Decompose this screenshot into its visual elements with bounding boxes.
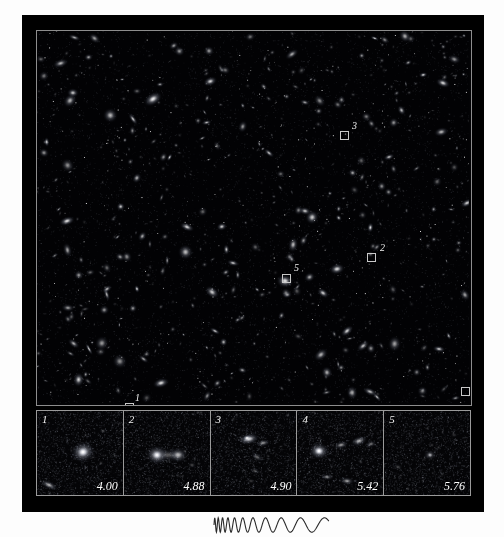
thumbnail-panel-5[interactable]: 55.76 (383, 410, 471, 496)
thumbnail-index-4: 4 (302, 414, 308, 425)
thumbnail-strip: 14.0024.8834.9045.4255.76 (36, 410, 470, 496)
thumbnail-redshift-4: 5.42 (357, 480, 378, 493)
thumbnail-panel-2[interactable]: 24.88 (123, 410, 211, 496)
figure-plate: 12345 14.0024.8834.9045.4255.76 (22, 15, 484, 512)
marker-label-2: 2 (380, 243, 385, 253)
thumbnail-redshift-3: 4.90 (270, 480, 291, 493)
thumbnail-index-2: 2 (129, 414, 135, 425)
thumbnail-index-1: 1 (42, 414, 48, 425)
marker-box-3[interactable] (340, 131, 349, 140)
deep-field-survey-image[interactable]: 12345 (36, 30, 472, 406)
marker-box-4[interactable] (461, 387, 470, 396)
marker-label-4: 4 (471, 377, 472, 387)
thumbnail-panel-1[interactable]: 14.00 (36, 410, 124, 496)
marker-label-3: 3 (352, 121, 357, 131)
thumbnail-index-3: 3 (216, 414, 222, 425)
marker-label-1: 1 (135, 393, 140, 403)
redshift-stretching-waveform-icon (213, 514, 331, 536)
thumbnail-redshift-1: 4.00 (97, 480, 118, 493)
thumbnail-panel-4[interactable]: 45.42 (296, 410, 384, 496)
caption-area (0, 512, 504, 537)
thumbnail-panel-3[interactable]: 34.90 (210, 410, 298, 496)
marker-box-5[interactable] (282, 274, 291, 283)
thumbnail-redshift-2: 4.88 (184, 480, 205, 493)
starfield-canvas (37, 31, 469, 403)
marker-box-2[interactable] (367, 253, 376, 262)
thumbnail-index-5: 5 (389, 414, 395, 425)
thumbnail-redshift-5: 5.76 (444, 480, 465, 493)
marker-box-1[interactable] (125, 403, 134, 406)
marker-label-5: 5 (294, 263, 299, 273)
